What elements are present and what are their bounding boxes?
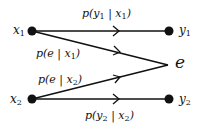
node-y1-dot [165, 27, 174, 36]
node-x1-dot [28, 27, 37, 36]
node-x2-label: x2 [10, 93, 22, 107]
node-y2-label: y2 [179, 93, 191, 107]
edge-label-y1-given-x1: p(y1 | x1) [82, 8, 131, 21]
edge-label-e-given-x2: p(e | x2) [38, 74, 82, 87]
node-y1-label: y1 [179, 24, 191, 38]
node-y2-dot [165, 95, 174, 104]
node-x1-label: x1 [13, 24, 25, 38]
edge-label-y2-given-x2: p(y2 | x2) [85, 110, 134, 123]
arrow-icon [113, 46, 120, 55]
node-e-label: e [175, 54, 185, 71]
node-x2-dot [28, 95, 37, 104]
edge-label-e-given-x1: p(e | x1) [36, 48, 80, 61]
